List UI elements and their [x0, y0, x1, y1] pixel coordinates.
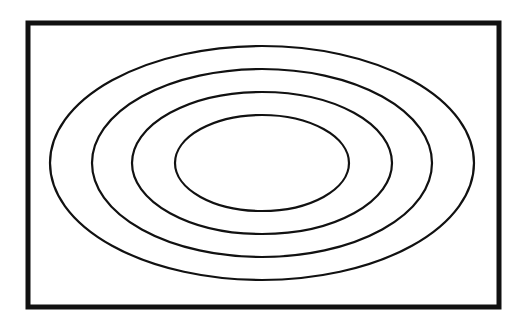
ellipse-third: [132, 92, 392, 234]
frame-border: [28, 23, 499, 307]
ellipse-outer: [50, 46, 474, 280]
concentric-ellipses-diagram: [0, 0, 523, 325]
ellipse-group: [50, 46, 474, 280]
ellipse-second: [92, 69, 432, 257]
ellipse-inner: [175, 115, 349, 211]
